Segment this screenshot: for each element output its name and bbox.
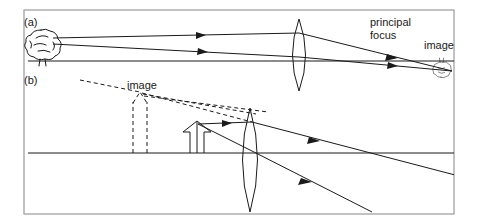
panel-a-tag: (a)	[24, 16, 37, 28]
panel-b-ray-2-refracted-arrowhead	[298, 178, 312, 185]
panel-a-ray-1-arrowhead	[196, 32, 206, 39]
panel-a-ray-1-incident	[53, 33, 299, 38]
panel-a-converging-lens	[293, 19, 306, 91]
diagram-canvas: (a)	[0, 0, 477, 224]
panel-a-ray-2-refracted-arrowhead	[387, 62, 398, 69]
panel-b-ray-1-arrowhead	[222, 120, 232, 127]
panel-b-virtual-ray-extension-2	[143, 94, 256, 114]
panel-a: (a)	[24, 16, 455, 91]
panel-a-ray-1-refracted-arrowhead	[385, 54, 398, 61]
panel-b-tag: (b)	[24, 74, 37, 86]
panel-b-ray-2-refracted	[250, 150, 372, 212]
panel-a-focus-label: focus	[370, 29, 397, 41]
panel-b: (b)	[24, 74, 455, 212]
panel-b-image-label: image	[127, 79, 157, 91]
panel-b-ray-2-incident	[198, 124, 250, 150]
panel-b-converging-lens	[243, 108, 258, 212]
panel-a-ray-2-incident	[53, 44, 299, 57]
panel-b-virtual-image-arrow	[133, 102, 147, 153]
panel-a-ray-2-refracted	[299, 57, 452, 71]
panel-a-ray-2-arrowhead	[197, 48, 208, 55]
panel-a-image-label: image	[424, 39, 454, 51]
optics-ray-diagram-figure: (a)	[0, 0, 477, 224]
panel-b-object-arrow	[183, 121, 211, 153]
panel-a-principal-label: principal	[370, 16, 411, 28]
